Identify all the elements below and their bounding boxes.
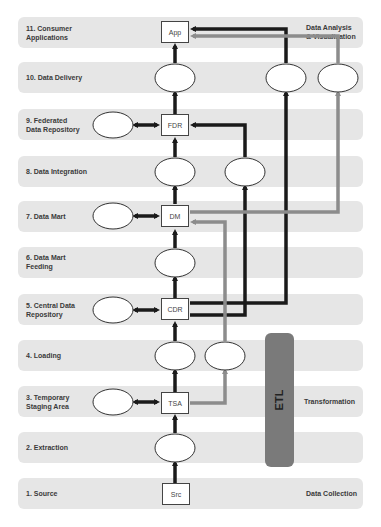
ellipse-cdr-side bbox=[93, 297, 133, 323]
node-fdr[interactable]: FDR bbox=[161, 114, 189, 136]
ellipse-loading-branch bbox=[205, 342, 245, 370]
node-app-label: App bbox=[169, 29, 181, 36]
ellipse-fdr-side bbox=[93, 112, 133, 138]
ellipse-tsa-side bbox=[93, 389, 133, 415]
tsa-to-dm-gray-path bbox=[190, 222, 225, 403]
node-dm[interactable]: DM bbox=[161, 205, 189, 227]
ellipse-delivery-branch-2 bbox=[318, 64, 358, 92]
ellipse-extraction bbox=[155, 434, 195, 462]
ellipse-integration-branch bbox=[225, 158, 265, 186]
ellipse-dm-side bbox=[93, 203, 133, 229]
node-dm-label: DM bbox=[170, 213, 181, 220]
cdr-to-fdr-path bbox=[190, 125, 245, 315]
ellipse-delivery-branch-1 bbox=[266, 64, 306, 92]
node-cdr-label: CDR bbox=[167, 306, 182, 313]
node-tsa-label: TSA bbox=[168, 400, 182, 407]
node-src[interactable]: Src bbox=[162, 483, 190, 505]
ellipse-delivery bbox=[155, 64, 195, 92]
branch-ellipses bbox=[205, 64, 358, 370]
flow-connectors bbox=[0, 0, 381, 527]
node-app[interactable]: App bbox=[161, 21, 189, 43]
node-tsa[interactable]: TSA bbox=[161, 392, 189, 414]
left-ellipses bbox=[93, 112, 133, 415]
ellipse-integration bbox=[155, 158, 195, 186]
node-fdr-label: FDR bbox=[168, 122, 182, 129]
ellipse-loading bbox=[155, 342, 195, 370]
ellipse-dm-feeding bbox=[155, 249, 195, 277]
bidirectional-arrows bbox=[135, 125, 157, 402]
node-cdr[interactable]: CDR bbox=[161, 298, 189, 320]
node-src-label: Src bbox=[171, 491, 182, 498]
